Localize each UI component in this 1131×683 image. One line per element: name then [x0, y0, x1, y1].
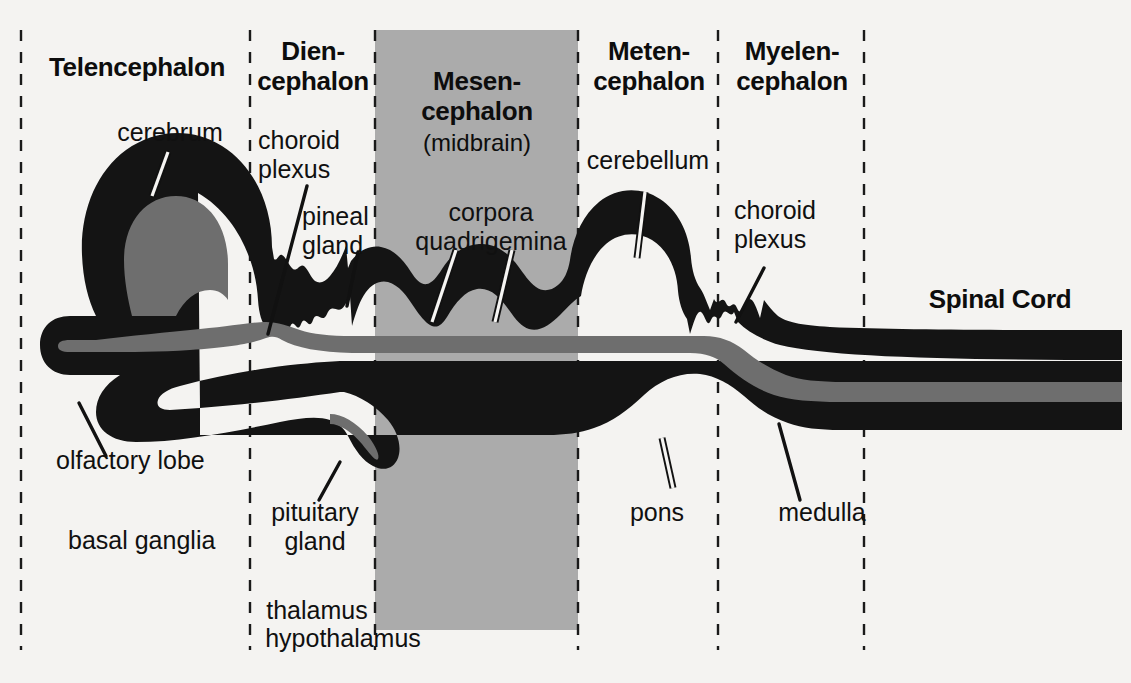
- label-pons: pons: [602, 498, 712, 527]
- label-hypothalamus: hypothalamus: [246, 624, 440, 653]
- region-title-mesencephalon-main: Mesen- cephalon: [421, 66, 533, 126]
- leader-pituitary-gland: [319, 462, 340, 500]
- leader-medulla: [779, 424, 800, 500]
- label-pineal-gland: pineal gland: [302, 202, 392, 260]
- label-choroid-plexus-myelencephalon: choroid plexus: [734, 196, 850, 254]
- region-title-telencephalon: Telencephalon: [30, 52, 244, 82]
- label-choroid-plexus-diencephalon: choroid plexus: [258, 126, 374, 184]
- label-pituitary-gland: pituitary gland: [254, 498, 376, 556]
- region-title-metencephalon: Meten- cephalon: [582, 36, 716, 96]
- label-corpora-quadrigemina: corpora quadrigemina: [398, 198, 584, 256]
- label-medulla: medulla: [752, 498, 892, 527]
- region-title-spinal-cord: Spinal Cord: [900, 284, 1100, 314]
- region-title-mesencephalon: Mesen- cephalon (midbrain): [379, 36, 575, 188]
- label-cerebrum: cerebrum: [90, 118, 250, 147]
- region-title-diencephalon: Dien- cephalon: [254, 36, 372, 96]
- brain-regions-diagram: Telencephalon Dien- cephalon Mesen- ceph…: [0, 0, 1131, 683]
- label-thalamus: thalamus: [252, 596, 382, 625]
- leader-pons: [662, 438, 673, 488]
- region-title-myelencephalon: Myelen- cephalon: [722, 36, 862, 96]
- region-subtitle-mesencephalon: (midbrain): [379, 128, 575, 158]
- label-olfactory-lobe: olfactory lobe: [56, 446, 276, 475]
- label-cerebellum: cerebellum: [570, 146, 726, 175]
